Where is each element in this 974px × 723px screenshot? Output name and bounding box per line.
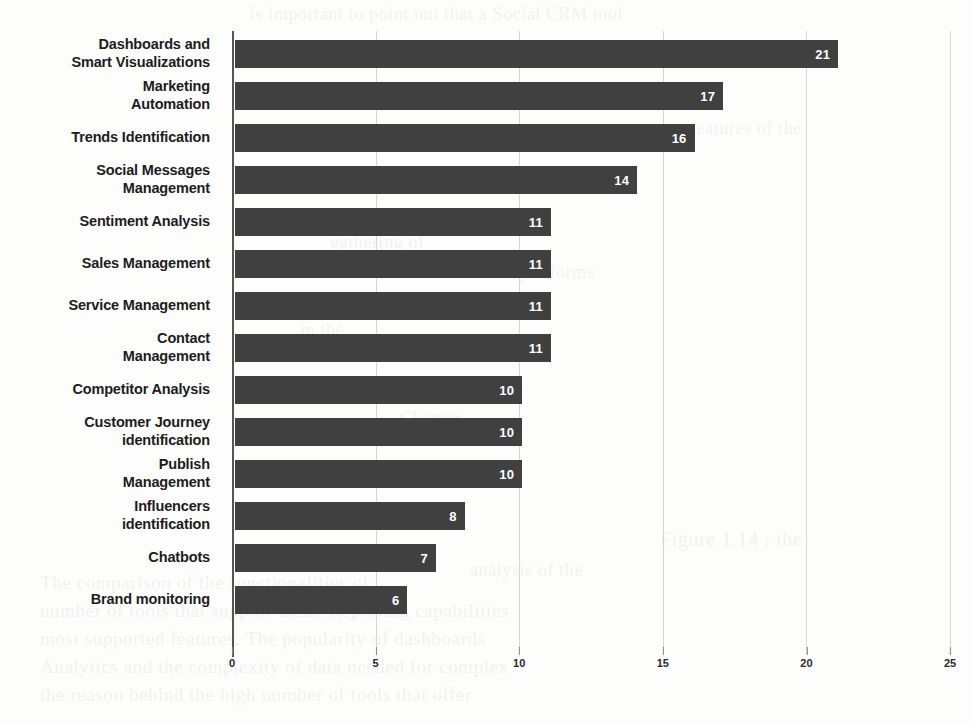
x-tick-label-0: 0 [229,657,235,669]
bar-value-label: 10 [499,425,514,440]
category-label-line: Automation [0,95,210,113]
category-label-line: Service Management [0,296,210,314]
bar[interactable]: 14 [235,166,637,194]
x-tick-mark-15 [663,647,664,655]
bar-row: Service Management11 [232,285,950,327]
category-label: PublishManagement [0,455,210,491]
bar-value-label: 10 [499,467,514,482]
plot-area: Dashboards andSmart Visualizations21Mark… [232,31,950,655]
bar[interactable]: 11 [235,250,551,278]
category-label-line: Publish [0,455,210,473]
category-label-line: Sales Management [0,254,210,272]
chart-page: is important to point out that a Social … [0,0,974,723]
bar[interactable]: 16 [235,124,695,152]
bar-value-label: 16 [672,131,687,146]
category-label: Customer Journeyidentification [0,413,210,449]
bar-row: Brand monitoring6 [232,579,950,621]
bar[interactable]: 10 [235,376,522,404]
bar[interactable]: 10 [235,460,522,488]
category-label-line: Trends Identification [0,128,210,146]
bar-row: Chatbots7 [232,537,950,579]
x-tick-mark-20 [806,647,807,655]
bar-value-label: 11 [529,299,543,314]
category-label-line: Management [0,473,210,491]
category-label-line: Marketing [0,77,210,95]
bar-row: Trends Identification16 [232,117,950,159]
x-axis-ticks: 0510152025 [232,657,950,687]
category-label: Chatbots [0,548,210,566]
category-label-line: Competitor Analysis [0,380,210,398]
category-label-line: Management [0,347,210,365]
category-label: Competitor Analysis [0,380,210,398]
bleed-text: the reason behind the high number of too… [40,684,472,706]
bar-row: Competitor Analysis10 [232,369,950,411]
category-label: MarketingAutomation [0,77,210,113]
bar-value-label: 21 [815,47,830,62]
bar-value-label: 10 [499,383,514,398]
category-label: Dashboards andSmart Visualizations [0,35,210,71]
x-tick-label-5: 5 [373,657,379,669]
y-axis-line [232,31,234,657]
bar-value-label: 7 [421,551,428,566]
bar-value-label: 17 [700,89,715,104]
bar-row: MarketingAutomation17 [232,75,950,117]
category-label-line: Management [0,179,210,197]
category-label-line: Brand monitoring [0,590,210,608]
category-label-line: Sentiment Analysis [0,212,210,230]
bar[interactable]: 7 [235,544,436,572]
category-label: Sentiment Analysis [0,212,210,230]
bar[interactable]: 11 [235,334,551,362]
category-label: Sales Management [0,254,210,272]
bar[interactable]: 17 [235,82,723,110]
bar-value-label: 14 [614,173,629,188]
x-tick-mark-0 [232,647,233,655]
category-label-line: Social Messages [0,161,210,179]
bar[interactable]: 8 [235,502,465,530]
bar-value-label: 11 [529,257,543,272]
bar-row: Sentiment Analysis11 [232,201,950,243]
category-label: Service Management [0,296,210,314]
x-tick-label-15: 15 [657,657,669,669]
bar-value-label: 6 [392,593,399,608]
bar-value-label: 11 [529,215,543,230]
category-label-line: Influencers [0,497,210,515]
x-tick-mark-10 [519,647,520,655]
category-label-line: Dashboards and [0,35,210,53]
bar-value-label: 11 [529,341,543,356]
bar[interactable]: 6 [235,586,407,614]
x-tick-label-20: 20 [800,657,812,669]
bar[interactable]: 11 [235,208,551,236]
bar[interactable]: 10 [235,418,522,446]
bar[interactable]: 21 [235,40,838,68]
category-label-line: Smart Visualizations [0,53,210,71]
bar-value-label: 8 [449,509,456,524]
category-label: ContactManagement [0,329,210,365]
category-label: Trends Identification [0,128,210,146]
x-tick-label-25: 25 [944,657,956,669]
bar-row: Sales Management11 [232,243,950,285]
x-tick-mark-5 [376,647,377,655]
category-label-line: Chatbots [0,548,210,566]
x-tick-label-10: 10 [513,657,525,669]
category-label-line: identification [0,431,210,449]
category-label-line: Customer Journey [0,413,210,431]
gridline-25 [950,31,951,655]
bar-row: Customer Journeyidentification10 [232,411,950,453]
bleed-text: is important to point out that a Social … [250,4,623,25]
bar-row: ContactManagement11 [232,327,950,369]
bar[interactable]: 11 [235,292,551,320]
bar-row: Social MessagesManagement14 [232,159,950,201]
bar-row: Dashboards andSmart Visualizations21 [232,33,950,75]
category-label: Social MessagesManagement [0,161,210,197]
bar-row: Influencersidentification8 [232,495,950,537]
bar-row: PublishManagement10 [232,453,950,495]
category-label: Brand monitoring [0,590,210,608]
category-label: Influencersidentification [0,497,210,533]
category-label-line: identification [0,515,210,533]
category-label-line: Contact [0,329,210,347]
x-tick-mark-25 [950,647,951,655]
